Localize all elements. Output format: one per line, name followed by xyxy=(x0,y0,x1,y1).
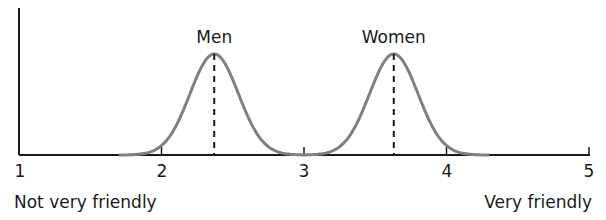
tick-label-1: 1 xyxy=(15,163,26,180)
right-end-label: Very friendly xyxy=(484,194,592,211)
men-distribution-curve xyxy=(119,54,304,155)
women-distribution-curve xyxy=(304,54,489,155)
men-label: Men xyxy=(196,29,232,46)
tick-label-3: 3 xyxy=(299,163,310,180)
x-axis-ticks xyxy=(162,147,590,155)
tick-label-2: 2 xyxy=(157,163,168,180)
left-end-label: Not very friendly xyxy=(14,194,157,211)
distribution-chart xyxy=(0,0,606,220)
women-label: Women xyxy=(362,29,426,46)
tick-label-4: 4 xyxy=(442,163,453,180)
tick-label-5: 5 xyxy=(584,163,595,180)
